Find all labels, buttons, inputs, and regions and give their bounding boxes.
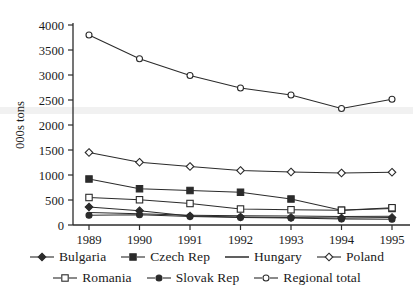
y-tick-label: 2000	[39, 119, 64, 133]
legend-marker-open-circle-icon	[253, 271, 279, 285]
legend-marker-open-square-icon	[52, 271, 78, 285]
legend-marker-filled-circle-icon	[146, 271, 172, 285]
y-tick-label: 3000	[39, 69, 64, 83]
legend-label: Slovak Rep	[176, 270, 240, 286]
y-tick-label: 500	[45, 194, 64, 208]
y-tick-label: 1000	[39, 169, 64, 183]
series-poland	[85, 149, 396, 177]
legend-item-poland[interactable]: Poland	[316, 249, 384, 265]
y-tick-label: 3500	[39, 44, 64, 58]
chart-legend: BulgariaCzech RepHungaryPoland RomaniaSl…	[0, 246, 413, 288]
legend-item-czech-rep[interactable]: Czech Rep	[120, 249, 210, 265]
legend-label: Bulgaria	[59, 249, 106, 265]
legend-item-romania[interactable]: Romania	[52, 270, 131, 286]
x-tick-label: 1990	[127, 233, 152, 247]
y-tick-label: 1500	[39, 144, 64, 158]
y-tick-label: 4000	[39, 19, 64, 33]
legend-label: Hungary	[254, 249, 302, 265]
y-tick-label: 2500	[39, 94, 64, 108]
legend-marker-filled-square-icon	[120, 250, 146, 264]
x-tick-label: 1993	[278, 233, 303, 247]
x-tick-label: 1995	[379, 233, 404, 247]
legend-marker-open-diamond-icon	[316, 250, 342, 264]
legend-item-regional-total[interactable]: Regional total	[253, 270, 361, 286]
series-regional-total	[86, 32, 395, 112]
legend-label: Czech Rep	[150, 249, 210, 265]
x-tick-label: 1994	[329, 233, 355, 247]
legend-item-slovak-rep[interactable]: Slovak Rep	[146, 270, 240, 286]
legend-marker-none-icon	[224, 250, 250, 264]
chart-figure: 05001000150020002500300035004000000s ton…	[0, 0, 413, 294]
legend-item-bulgaria[interactable]: Bulgaria	[29, 249, 106, 265]
x-tick-label: 1991	[177, 233, 202, 247]
x-tick-label: 1992	[228, 233, 253, 247]
legend-row-1: BulgariaCzech RepHungaryPoland	[0, 246, 413, 267]
legend-item-hungary[interactable]: Hungary	[224, 249, 302, 265]
legend-row-2: RomaniaSlovak RepRegional total	[0, 267, 413, 288]
y-axis-title: 000s tons	[13, 101, 27, 149]
legend-label: Regional total	[283, 270, 361, 286]
y-tick-label: 0	[58, 219, 64, 233]
legend-label: Poland	[346, 249, 384, 265]
legend-marker-filled-diamond-icon	[29, 250, 55, 264]
legend-label: Romania	[82, 270, 131, 286]
x-tick-label: 1989	[76, 233, 101, 247]
